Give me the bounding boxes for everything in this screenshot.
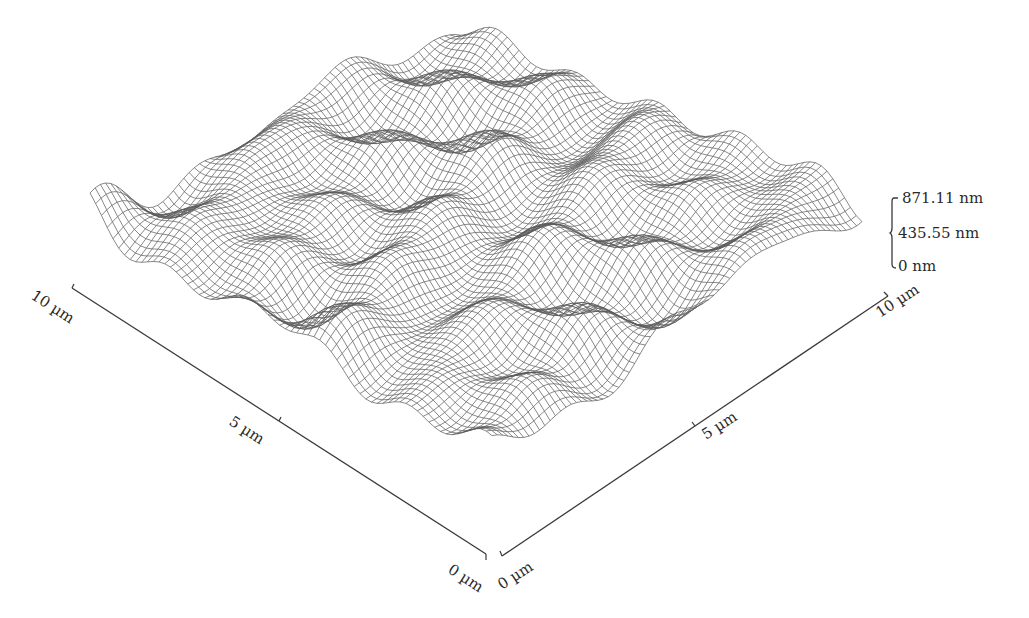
x-axis-label-mid: 5 µm xyxy=(226,412,268,448)
z-axis-bracket xyxy=(890,198,898,268)
z-axis-label-mid: 435.55 nm xyxy=(898,224,979,242)
wireframe-surface xyxy=(90,27,862,437)
x-axis-label-max: 10 µm xyxy=(28,286,78,327)
z-axis-label-max: 871.11 nm xyxy=(902,189,983,207)
x-axis-label-min: 0 µm xyxy=(445,560,487,596)
afm-surface-plot: 10 µm 5 µm 0 µm 0 µm 5 µm 10 µm 871.11 n… xyxy=(0,0,1029,618)
x-axis: 10 µm 5 µm 0 µm xyxy=(28,284,487,596)
z-axis: 871.11 nm 435.55 nm 0 nm xyxy=(890,189,983,275)
y-axis-tick-mid xyxy=(692,422,695,426)
x-axis-tick-mid xyxy=(279,417,281,421)
x-axis-tick-max xyxy=(72,284,74,288)
y-axis-label-max: 10 µm xyxy=(872,280,922,321)
y-axis-label-mid: 5 µm xyxy=(698,407,740,443)
y-axis-label-min: 0 µm xyxy=(494,557,536,593)
z-axis-label-min: 0 nm xyxy=(898,257,936,275)
y-axis-tick-min xyxy=(500,551,502,556)
y-axis: 0 µm 5 µm 10 µm xyxy=(494,280,922,593)
